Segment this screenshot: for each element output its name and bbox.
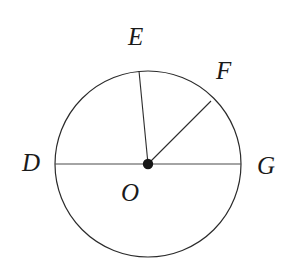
point-label-f: F	[216, 58, 231, 83]
point-label-o: O	[121, 180, 139, 205]
radius-of	[148, 101, 211, 164]
point-label-g: G	[257, 153, 275, 178]
center-point-dot	[143, 159, 153, 169]
geometry-figure: D E F G O	[0, 0, 297, 278]
radius-oe	[139, 71, 148, 164]
point-label-e: E	[128, 24, 143, 49]
point-label-d: D	[22, 150, 40, 175]
figure-canvas	[0, 0, 297, 278]
